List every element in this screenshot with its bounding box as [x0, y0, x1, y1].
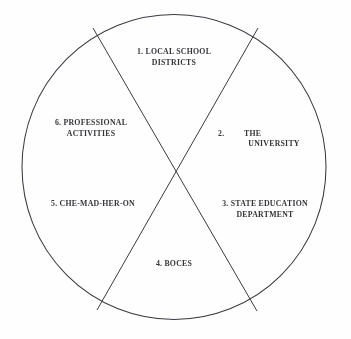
circle-partition-figure: 1. LOCAL SCHOOL DISTRICTS 2.THE UNIVERSI… — [0, 0, 351, 339]
segment-label-professional-activities: 6. PROFESSIONAL ACTIVITIES — [32, 118, 150, 139]
segment-label-the-university: 2.THE UNIVERSITY — [218, 118, 322, 160]
segment-label-boces: 4. BOCES — [126, 259, 222, 270]
segment-number-2: 2. — [218, 129, 244, 140]
segment-label-che-mad-her-on: 5. CHE-MAD-HER-ON — [34, 199, 152, 210]
segment-label-local-school-districts: 1. LOCAL SCHOOL DISTRICTS — [113, 47, 235, 68]
segment-label-the-university-line1: THE — [244, 129, 261, 138]
segment-label-state-education-department: 3. STATE EDUCATION DEPARTMENT — [206, 199, 324, 220]
segment-label-the-university-line2: UNIVERSITY — [218, 139, 322, 150]
